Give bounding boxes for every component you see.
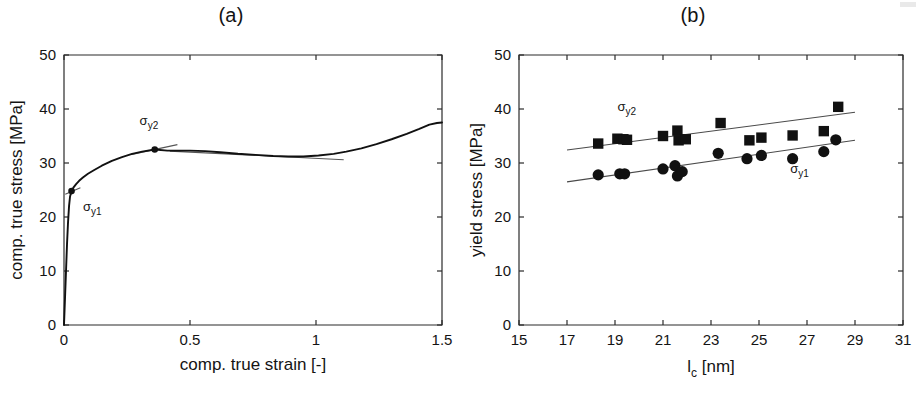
stress-strain-curve [64,123,442,326]
y-tick-label: 20 [39,208,56,225]
y-tick-label: 50 [39,46,56,63]
marker-circle-sigma-y1 [756,150,767,161]
plot-frame [519,55,903,325]
x-tick-label: 1.5 [432,331,453,348]
y-axis-title: comp. true stress [MPa] [7,100,26,280]
y-tick-label: 40 [39,100,56,117]
marker-square-sigma-y2 [622,135,632,145]
panel-b: (b) 15171921232527293101020304050lc [nm]… [462,0,924,397]
panel-a-plot: 00.511.501020304050comp. true strain [-]… [0,0,462,397]
x-tick-label: 0 [60,331,68,348]
x-tick-label: 21 [655,331,672,348]
x-tick-label: 19 [607,331,624,348]
marker-square-sigma-y2 [658,131,668,141]
fit-sigma-y2 [567,112,855,150]
fit-lines [567,112,855,182]
y-axis-title: yield stress [MPa] [467,123,486,257]
x-tick-label: 25 [751,331,768,348]
x-axis-title: lc [nm] [687,357,735,380]
sigma-y2-label: σy2 [140,113,159,131]
x-tick-label: 1 [312,331,320,348]
marker-circle-sigma-y1 [657,163,668,174]
y-tick-label: 30 [39,154,56,171]
y-tick-label: 0 [503,316,511,333]
marker-square-sigma-y2 [681,134,691,144]
sigma-y2-label-b0: σy2 [617,99,636,117]
sigma-y1-marker [68,188,75,195]
marker-circle-sigma-y1 [741,153,752,164]
series-annotations: σy2σy1 [617,99,809,179]
y-tick-label: 10 [494,262,511,279]
sigma-y1-label: σy1 [83,199,102,217]
sigma-y1-label-b1: σy1 [790,161,809,179]
y-tick-label: 30 [494,154,511,171]
plot-frame [64,55,442,325]
marker-square-sigma-y2 [833,102,843,112]
marker-circle-sigma-y1 [619,168,630,179]
marker-circle-sigma-y1 [593,169,604,180]
marker-circle-sigma-y1 [677,166,688,177]
marker-circle-sigma-y1 [830,134,841,145]
marker-square-sigma-y2 [819,126,829,136]
marker-circle-sigma-y1 [713,148,724,159]
x-tick-label: 0.5 [180,331,201,348]
x-tick-label: 27 [799,331,816,348]
x-tick-label: 29 [847,331,864,348]
x-tick-label: 15 [511,331,528,348]
marker-square-sigma-y2 [756,132,766,142]
x-tick-label: 23 [703,331,720,348]
panel-b-plot: 15171921232527293101020304050lc [nm]yiel… [462,0,924,397]
axes: 00.511.501020304050 [39,46,452,348]
figure-root: (a) 00.511.501020304050comp. true strain… [0,0,924,397]
fit-sigma-y1 [567,140,855,182]
sigma-y2-marker [151,146,158,153]
marker-square-sigma-y2 [744,135,754,145]
y-tick-label: 20 [494,208,511,225]
axes: 15171921232527293101020304050 [494,46,911,348]
x-axis-title: comp. true strain [-] [180,355,326,374]
panel-a: (a) 00.511.501020304050comp. true strain… [0,0,462,397]
marker-square-sigma-y2 [787,130,797,140]
y-tick-label: 10 [39,262,56,279]
y-tick-label: 40 [494,100,511,117]
tangent-lines [65,145,343,195]
y-tick-label: 50 [494,46,511,63]
x-tick-label: 17 [559,331,576,348]
x-tick-label: 31 [895,331,912,348]
marker-square-sigma-y2 [715,118,725,128]
marker-circle-sigma-y1 [818,146,829,157]
yield-annotations: σy1σy2 [68,113,158,216]
y-tick-label: 0 [48,316,56,333]
marker-square-sigma-y2 [593,138,603,148]
